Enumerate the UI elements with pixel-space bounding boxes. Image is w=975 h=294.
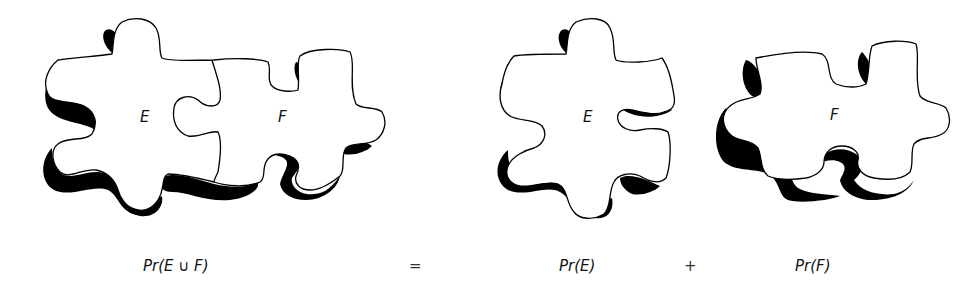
formula-equals-sign: = (409, 257, 422, 275)
union-label-f: F (278, 108, 287, 126)
puzzle-illustration (0, 0, 975, 294)
puzzle-probability-figure: E F E F Pr(E ∪ F) = Pr(E) + Pr(F) (0, 0, 975, 294)
union-puzzle-pair (43, 19, 385, 217)
union-label-e: E (140, 108, 149, 126)
formula-probability-e: Pr(E) (559, 257, 595, 275)
piece-f-label: F (830, 106, 839, 124)
formula-union-probability: Pr(E ∪ F) (143, 257, 209, 275)
formula-plus-sign: + (684, 257, 697, 275)
formula-probability-f: Pr(F) (795, 257, 831, 275)
piece-e-label: E (583, 108, 592, 126)
